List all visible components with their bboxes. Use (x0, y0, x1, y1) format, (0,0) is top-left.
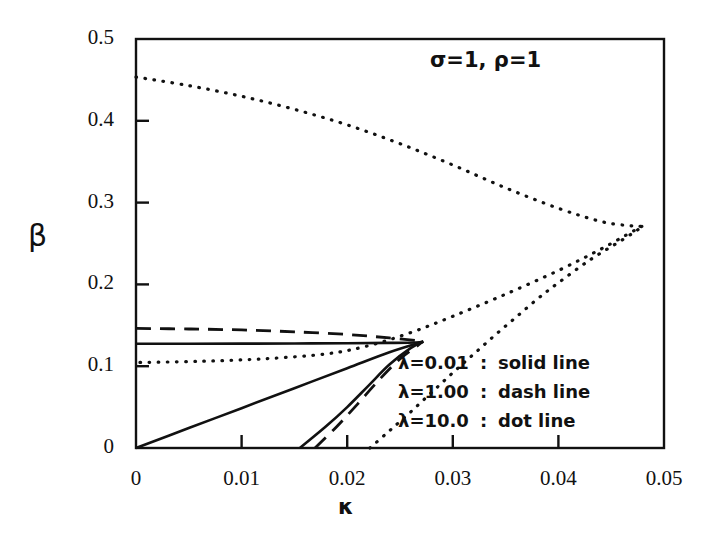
legend-sep-solid: : (480, 348, 498, 377)
legend-label-dot: λ=10.0 (398, 406, 480, 435)
legend-style-dot: dot line (498, 410, 575, 431)
legend-item-solid: λ=0.01:solid line (398, 348, 590, 377)
legend-style-solid: solid line (498, 352, 590, 373)
legend: λ=0.01:solid line λ=1.00:dash line λ=10.… (398, 348, 590, 435)
figure-root: β κ σ=1, ρ=1 λ=0.01:solid line λ=1.00:da… (0, 0, 712, 540)
x-tick-label: 0.02 (302, 466, 392, 491)
x-tick-label: 0.03 (408, 466, 498, 491)
x-tick-label: 0.05 (619, 466, 709, 491)
series-curve-0 (136, 342, 423, 344)
x-tick-label: 0.01 (197, 466, 287, 491)
legend-sep-dash: : (480, 377, 498, 406)
y-tick-label: 0.2 (44, 270, 114, 295)
legend-item-dash: λ=1.00:dash line (398, 377, 590, 406)
y-tick-label: 0.1 (44, 352, 114, 377)
y-tick-label: 0.4 (44, 107, 114, 132)
legend-label-dash: λ=1.00 (398, 377, 480, 406)
legend-item-dot: λ=10.0:dot line (398, 406, 590, 435)
y-tick-label: 0 (44, 434, 114, 459)
parameter-annotation: σ=1, ρ=1 (430, 48, 541, 72)
y-tick-label: 0.5 (44, 25, 114, 50)
legend-sep-dot: : (480, 406, 498, 435)
series-curve-5 (136, 77, 642, 226)
legend-style-dash: dash line (498, 381, 590, 402)
x-tick-label: 0.04 (513, 466, 603, 491)
x-axis-label: κ (338, 494, 354, 519)
series-curve-1 (136, 342, 423, 448)
y-axis-label: β (28, 218, 47, 253)
series-curve-3 (136, 328, 423, 341)
x-tick-label: 0 (91, 466, 181, 491)
legend-label-solid: λ=0.01 (398, 348, 480, 377)
y-tick-label: 0.3 (44, 189, 114, 214)
